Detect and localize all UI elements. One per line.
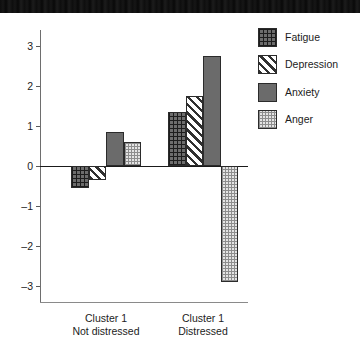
bar-depression-group2 <box>186 96 204 166</box>
category-label-2: Cluster 1Distressed <box>178 312 228 337</box>
category-label-1: Cluster 1Not distressed <box>72 312 139 337</box>
legend-item-depression[interactable]: Depression <box>258 55 358 75</box>
legend-label: Anxiety <box>285 87 319 98</box>
legend-label: Depression <box>285 59 338 70</box>
legend-swatch-anxiety-icon <box>258 83 277 102</box>
y-tick-label: 3 <box>27 41 33 52</box>
y-tick-mark <box>36 286 40 287</box>
y-tick-mark <box>36 46 40 47</box>
chart-figure: 3210–1–2–3 Cluster 1Not distressedCluste… <box>0 13 360 337</box>
category-label-line: Cluster 1 <box>178 312 228 325</box>
y-tick-label: 1 <box>27 121 33 132</box>
y-tick-label: –1 <box>21 201 33 212</box>
scan-artifact-strip <box>0 0 360 13</box>
y-tick-label: 0 <box>27 161 33 172</box>
y-tick-mark <box>36 126 40 127</box>
legend-swatch-anger-icon <box>258 110 277 129</box>
y-tick-label: –3 <box>21 281 33 292</box>
y-tick-mark <box>36 206 40 207</box>
bar-fatigue-group2 <box>168 112 186 166</box>
plot-area: 3210–1–2–3 Cluster 1Not distressedCluste… <box>40 30 248 302</box>
category-label-line: Distressed <box>178 325 228 337</box>
legend-label: Fatigue <box>285 32 320 43</box>
bar-anxiety-group2 <box>203 56 221 166</box>
legend-label: Anger <box>285 114 313 125</box>
y-tick-mark <box>36 246 40 247</box>
bar-anger-group2 <box>221 166 239 282</box>
legend-item-anxiety[interactable]: Anxiety <box>258 82 358 102</box>
category-label-line: Not distressed <box>72 325 139 337</box>
category-label-line: Cluster 1 <box>72 312 139 325</box>
legend-item-anger[interactable]: Anger <box>258 110 358 130</box>
legend-swatch-depression-icon <box>258 55 277 74</box>
x-axis-line <box>40 302 248 303</box>
bar-fatigue-group1 <box>71 166 89 188</box>
bar-anger-group1 <box>124 142 142 166</box>
y-tick-mark <box>36 86 40 87</box>
y-tick-label: 2 <box>27 81 33 92</box>
legend-swatch-fatigue-icon <box>258 28 277 47</box>
bar-depression-group1 <box>89 166 107 180</box>
legend-item-fatigue[interactable]: Fatigue <box>258 27 358 47</box>
chart-legend: FatigueDepressionAnxietyAnger <box>258 27 358 137</box>
y-tick-mark <box>36 166 40 167</box>
bar-anxiety-group1 <box>106 132 124 166</box>
y-tick-label: –2 <box>21 241 33 252</box>
